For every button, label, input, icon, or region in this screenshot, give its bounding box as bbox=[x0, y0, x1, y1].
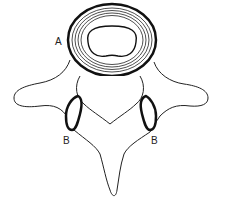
spinal-canal bbox=[77, 76, 144, 124]
vertebra-diagram: A B B bbox=[0, 0, 230, 208]
nucleus bbox=[88, 26, 137, 56]
label-b-right: B bbox=[151, 136, 158, 146]
facet-joint-left bbox=[66, 96, 81, 130]
vertebra-drawing bbox=[0, 0, 230, 208]
facet-joint-right bbox=[141, 96, 156, 130]
label-a: A bbox=[55, 37, 62, 47]
label-b-left: B bbox=[63, 136, 70, 146]
